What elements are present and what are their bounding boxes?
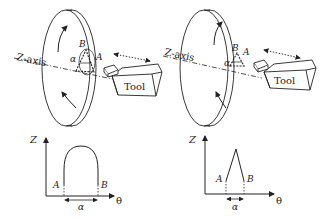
right-point-a-label: A xyxy=(242,47,250,57)
right-graph-z-label: Z xyxy=(188,134,197,145)
left-arch-profile xyxy=(64,146,98,185)
right-graph-theta-label: θ xyxy=(276,195,282,206)
left-grinding-wheel xyxy=(42,10,96,126)
left-angle-label: α xyxy=(70,54,76,64)
left-panel: Z-axis B A α Tool xyxy=(14,10,162,212)
right-grinding-wheel xyxy=(180,10,234,126)
left-graph-alpha-label: α xyxy=(78,202,84,212)
right-feed-arrow-icon xyxy=(264,50,300,58)
left-graph-z-label: Z xyxy=(29,134,38,145)
right-tool-label: Tool xyxy=(274,75,295,86)
left-point-a-label: A xyxy=(95,52,103,62)
left-graph-a-label: A xyxy=(52,180,60,190)
left-feed-arrow-icon xyxy=(114,54,150,61)
diagram-canvas: Z-axis B A α Tool xyxy=(0,0,327,219)
left-point-b-label: B xyxy=(78,39,86,49)
right-graph-a-label: A xyxy=(215,174,223,184)
right-point-b-label: B xyxy=(231,43,239,53)
right-panel: Z-axis B A α Tool Z θ A xyxy=(163,10,316,212)
right-profile-graph xyxy=(205,136,274,199)
left-graph-b-label: B xyxy=(100,180,108,190)
left-graph-theta-label: θ xyxy=(116,195,122,206)
right-graph-b-label: B xyxy=(246,174,254,184)
right-graph-alpha-label: α xyxy=(232,202,238,212)
right-peak-profile xyxy=(226,149,244,181)
left-profile-graph xyxy=(46,138,114,200)
right-angle-label: α xyxy=(224,58,230,68)
left-tool-label: Tool xyxy=(124,81,145,92)
